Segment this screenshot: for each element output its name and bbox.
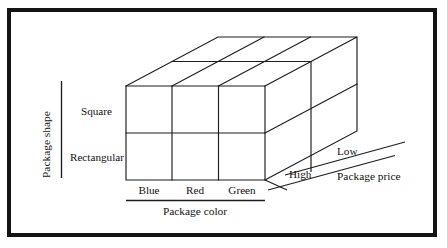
horizontal-axis-title: Package color [163,205,227,217]
horizontal-axis: Blue Red Green Package color [126,184,265,217]
vertical-axis-title: Package shape [40,111,52,178]
figure-root: Package shape Square Rectangular Blue Re… [0,0,447,248]
depth-axis-title: Package price [337,170,401,182]
factorial-cube-diagram: Package shape Square Rectangular Blue Re… [0,0,447,248]
horizontal-level-red: Red [186,184,204,196]
depth-level-high: High [289,168,312,180]
horizontal-level-blue: Blue [138,184,159,196]
vertical-level-square: Square [81,105,112,117]
depth-tick-high [265,180,287,190]
depth-level-low: Low [337,145,358,157]
vertical-axis: Package shape Square Rectangular [40,81,124,178]
cube-faces [126,37,357,180]
horizontal-level-green: Green [228,184,256,196]
vertical-level-rectangular: Rectangular [70,151,124,163]
